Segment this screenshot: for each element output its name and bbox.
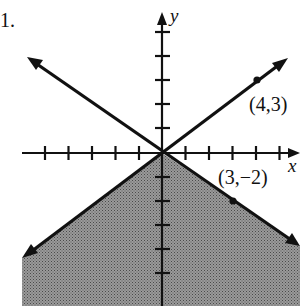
y-axis-label: y [168, 5, 179, 26]
point-label-3-neg2: (3,−2) [218, 166, 268, 189]
x-axis-label: x [287, 155, 297, 176]
point-4-3 [253, 76, 260, 83]
inequality-graph: 1. y x (4,3) (3,−2) [0, 0, 307, 306]
point-label-4-3: (4,3) [249, 93, 287, 116]
point-3-neg2 [229, 197, 236, 204]
problem-number: 1. [0, 9, 15, 31]
